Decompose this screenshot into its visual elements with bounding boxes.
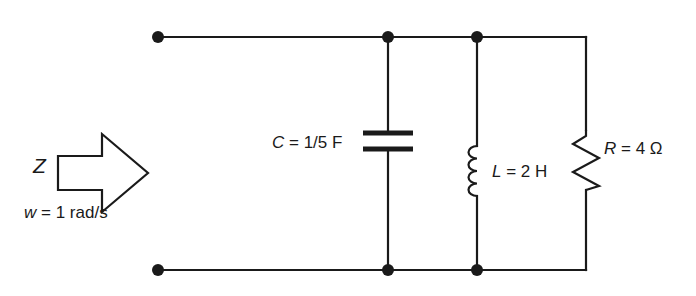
inductor-symbol <box>469 146 477 196</box>
resistor-value: = 4 Ω <box>621 139 663 158</box>
circuit-schematic-svg <box>0 0 696 296</box>
inductor-symbol-letter: L <box>492 162 501 181</box>
junction-dot-capacitor-top <box>382 31 394 43</box>
impedance-arrow-icon <box>58 134 148 212</box>
circuit-diagram: Z w = 1 rad/s C = 1/5 F L = 2 H R = 4 Ω <box>0 0 696 296</box>
resistor-symbol <box>573 130 599 190</box>
resistor-symbol-letter: R <box>604 139 616 158</box>
frequency-label: w = 1 rad/s <box>24 204 108 221</box>
capacitor-symbol-letter: C <box>272 133 284 152</box>
capacitor-label: C = 1/5 F <box>272 134 342 151</box>
junction-dot-capacitor-bottom <box>382 264 394 276</box>
inductor-value: = 2 H <box>506 162 547 181</box>
inductor-label: L = 2 H <box>492 163 547 180</box>
capacitor-value: = 1/5 F <box>289 133 342 152</box>
junction-dot-inductor-top <box>471 31 483 43</box>
resistor-label: R = 4 Ω <box>604 140 663 157</box>
terminal-dot-bottom-left <box>152 264 164 276</box>
node-dot-group <box>152 31 483 276</box>
capacitor-symbol <box>363 133 413 149</box>
wire-group <box>158 37 586 270</box>
junction-dot-inductor-bottom <box>471 264 483 276</box>
frequency-symbol: w <box>24 203 36 222</box>
impedance-label: Z <box>33 155 46 176</box>
frequency-value: = 1 rad/s <box>41 203 108 222</box>
terminal-dot-top-left <box>152 31 164 43</box>
